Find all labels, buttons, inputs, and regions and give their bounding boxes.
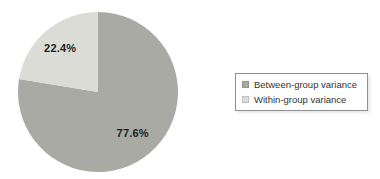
pie-slice-label-between-group: 77.6% bbox=[117, 127, 149, 139]
legend-item-between-group: Between-group variance bbox=[242, 79, 361, 90]
legend-swatch-within-group bbox=[242, 96, 249, 103]
pie-chart-figure: 77.6% 22.4% Between-group variance Withi… bbox=[0, 0, 380, 179]
legend-box: Between-group variance Within-group vari… bbox=[235, 73, 368, 111]
legend-swatch-between-group bbox=[242, 81, 249, 88]
legend-label-within-group: Within-group variance bbox=[254, 94, 346, 105]
legend-label-between-group: Between-group variance bbox=[254, 79, 357, 90]
pie-slice-label-within-group: 22.4% bbox=[44, 42, 76, 54]
legend-item-within-group: Within-group variance bbox=[242, 94, 361, 105]
